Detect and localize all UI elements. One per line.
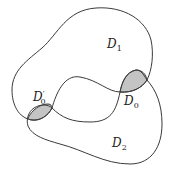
label-d1: D1 xyxy=(106,37,122,53)
region-d0prime-shading xyxy=(28,104,52,120)
label-d0: D0 xyxy=(123,94,139,110)
label-d2: D2 xyxy=(111,136,127,152)
region-diagram: D1 D2 D0 D′0 xyxy=(0,0,171,172)
label-d0prime: D′0 xyxy=(32,89,46,106)
